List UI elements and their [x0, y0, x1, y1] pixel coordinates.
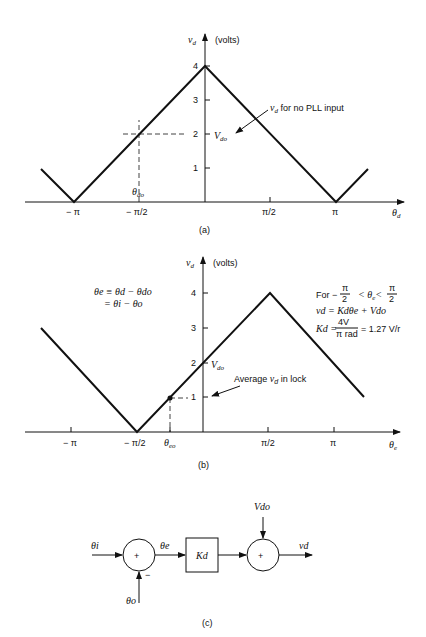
caption-c: (c)	[202, 618, 213, 628]
x-axis-label: θd	[392, 207, 401, 220]
vdo-label: Vdo	[214, 130, 228, 143]
definition-line2: = θi − θo	[104, 298, 143, 309]
x-tick-pi: π	[330, 438, 336, 448]
panel-c-block-diagram: θi + θo − θe Kd + Vdo vd (c)	[91, 501, 312, 628]
caption-b: (b)	[198, 460, 209, 470]
output-label: vd	[299, 540, 309, 551]
equation-kd-num: 4V	[338, 317, 349, 327]
vdo-label: Vdo	[211, 359, 225, 372]
svg-text:2: 2	[342, 294, 347, 304]
caption-a: (a)	[199, 225, 210, 235]
error-label: θe	[160, 540, 170, 551]
svg-text:For −: For −	[316, 290, 337, 300]
y-tick-3: 3	[191, 323, 196, 333]
annotation-text: Average vd in lock	[234, 373, 307, 385]
equations: For − π 2 < θe< π 2 vd = Kdθe + Vdo Kd =…	[315, 283, 400, 339]
equation-vd: vd = Kdθe + Vdo	[316, 305, 386, 316]
x-axis-label: θe	[389, 439, 397, 452]
y-axis-label: vd	[188, 34, 196, 47]
svg-text:π: π	[342, 283, 348, 293]
svg-text:2: 2	[389, 294, 394, 304]
x-tick-half-pi: π/2	[262, 207, 276, 217]
input-label: θi	[91, 540, 99, 551]
feedback-label: θo	[126, 595, 136, 606]
x-tick-neg-pi: − π	[66, 207, 80, 217]
gain-label: Kd	[195, 550, 209, 561]
equation-kd-rhs: = 1.27 V/r	[361, 324, 400, 334]
sum2-plus: +	[258, 551, 263, 561]
annotation-text: vd for no PLL input	[270, 102, 344, 115]
sum1-minus: −	[145, 570, 150, 580]
x-tick-theta-eo: θeo	[164, 437, 176, 450]
y-tick-4: 4	[191, 288, 196, 298]
offset-label: Vdo	[254, 501, 270, 512]
svg-text:π: π	[389, 283, 395, 293]
definition-line1: θe ≡ θd − θdo	[94, 286, 152, 297]
theta-do-label: θdo	[132, 186, 144, 199]
y-axis-unit: (volts)	[215, 35, 240, 45]
annotation-arrow	[212, 386, 240, 396]
svg-text:< θe<: < θe<	[358, 289, 382, 302]
x-tick-half-pi: π/2	[261, 438, 275, 448]
panel-a: vd (volts) 4 3 2 1 Vdo vd for no PLL inp…	[25, 34, 404, 235]
equation-kd-lhs: Kd =	[315, 323, 337, 334]
y-tick-1: 1	[193, 163, 198, 173]
x-tick-pi: π	[332, 207, 338, 217]
x-tick-neg-half-pi: − π/2	[126, 207, 147, 217]
y-axis-unit: (volts)	[213, 258, 238, 268]
y-tick-2: 2	[191, 358, 196, 368]
pll-phase-detector-figure: vd (volts) 4 3 2 1 Vdo vd for no PLL inp…	[0, 0, 426, 637]
y-tick-4: 4	[193, 61, 198, 71]
y-tick-3: 3	[193, 95, 198, 105]
panel-b: vd (volts) 4 3 2 1 Vdo Average vd in loc…	[25, 257, 400, 470]
x-tick-neg-half-pi: − π/2	[124, 438, 145, 448]
y-tick-1: 1	[191, 392, 196, 402]
y-tick-2: 2	[193, 129, 198, 139]
x-tick-neg-pi: − π	[63, 438, 77, 448]
sum1-plus: +	[134, 551, 139, 561]
y-axis-label: vd	[186, 257, 194, 270]
equation-kd-den: π rad	[336, 329, 358, 339]
